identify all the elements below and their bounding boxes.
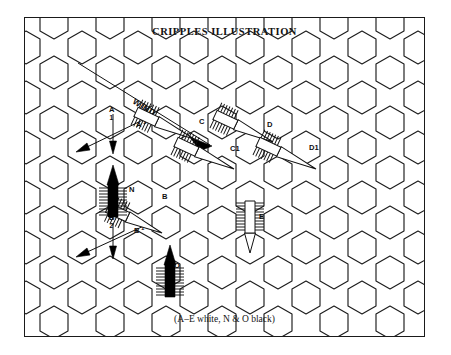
arrow-B1-label: B (134, 226, 140, 235)
arrow-N (99, 165, 127, 217)
arrow-D-label: D (267, 120, 273, 129)
figure-caption: (A–E white, N & O black) (24, 314, 425, 324)
arrow-O-label: O (174, 261, 180, 270)
arrow-A-sublabel: 1 (110, 114, 114, 121)
diagram-canvas: WIND A 1 A 1 B 2 (24, 17, 425, 337)
arrow-C1-label: C1 (230, 144, 240, 153)
arrow-E-label: E (259, 212, 264, 221)
diagram-page: CRIPPLES ILLUSTRATION (0, 0, 451, 355)
arrow-C-label: C (199, 117, 205, 126)
hex-grid (24, 17, 425, 337)
arrow-E (236, 201, 264, 253)
arrow-N-label: N (129, 185, 134, 194)
arrow-D1-label: D1 (309, 143, 319, 152)
arrow-A-label: A (109, 105, 115, 114)
arrow-B-hatched-label: B (162, 192, 168, 201)
